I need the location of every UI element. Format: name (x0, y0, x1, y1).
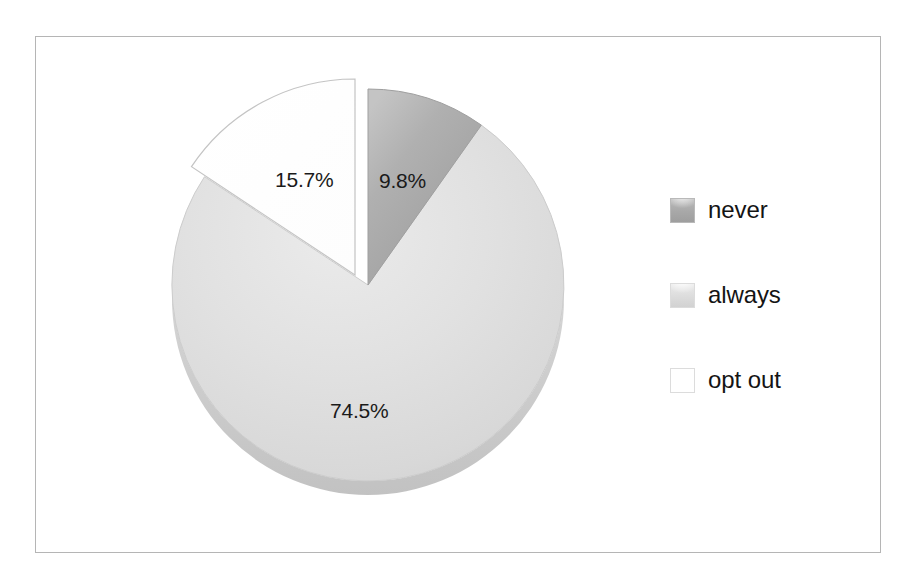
legend-item-always[interactable]: always (670, 282, 870, 308)
legend-label-always: always (708, 283, 781, 307)
legend-label-never: never (708, 198, 768, 222)
chart-frame: 9.8% 15.7% 74.5% never always opt out (35, 36, 881, 553)
legend-label-opt-out: opt out (708, 368, 781, 392)
legend-item-never[interactable]: never (670, 197, 870, 223)
slice-label-never: 9.8% (379, 170, 426, 191)
legend-swatch-opt-out-icon (670, 368, 695, 393)
legend-item-opt-out[interactable]: opt out (670, 367, 870, 393)
legend-swatch-never-icon (670, 198, 695, 223)
legend: never always opt out (670, 197, 870, 393)
slice-label-always: 74.5% (330, 400, 389, 421)
plot-area: 9.8% 15.7% 74.5% never always opt out (36, 37, 882, 554)
pie-chart (144, 53, 624, 523)
legend-swatch-always-icon (670, 283, 695, 308)
slice-label-opt-out: 15.7% (275, 169, 334, 190)
screenshot-root: 9.8% 15.7% 74.5% never always opt out (0, 0, 917, 574)
